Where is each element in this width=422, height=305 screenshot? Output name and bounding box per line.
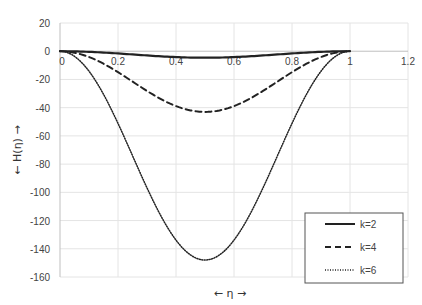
y-tick-label: -40 [36, 103, 51, 114]
y-tick-label: 0 [44, 46, 50, 57]
series-line-k4 [60, 51, 350, 112]
y-tick-label: -100 [30, 187, 50, 198]
x-tick-label: 1 [347, 56, 353, 67]
legend-label: k=4 [360, 242, 377, 253]
y-axis-ticks: 200-20-40-60-80-100-120-140-160 [30, 18, 50, 283]
y-tick-label: -60 [36, 131, 51, 142]
x-tick-label: 1.2 [401, 56, 415, 67]
y-tick-label: -120 [30, 216, 50, 227]
legend-label: k=2 [360, 219, 377, 230]
x-tick-label: 0.8 [285, 56, 299, 67]
x-tick-label: 0.2 [111, 56, 125, 67]
y-tick-label: 20 [39, 18, 51, 29]
y-axis-title: ← H(η) → [11, 125, 24, 174]
y-tick-label: -160 [30, 272, 50, 283]
y-tick-label: -80 [36, 159, 51, 170]
series-line-k2 [60, 51, 350, 57]
y-tick-label: -140 [30, 244, 50, 255]
legend-label: k=6 [360, 265, 377, 276]
chart: 00.20.40.60.811.2 200-20-40-60-80-100-12… [0, 0, 422, 305]
y-tick-label: -20 [36, 74, 51, 85]
legend: k=2 k=4 k=6 [305, 213, 403, 283]
x-axis-title: ← η → [214, 287, 246, 300]
x-tick-label: 0 [59, 56, 65, 67]
